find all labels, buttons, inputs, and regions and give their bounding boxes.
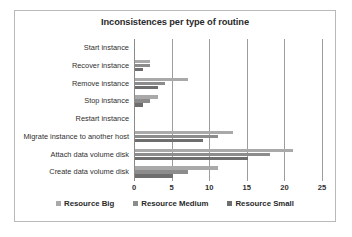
legend-label: Resource Medium — [141, 199, 208, 208]
category-row: Attach data volume disk — [134, 146, 322, 164]
legend-label: Resource Small — [235, 199, 294, 208]
category-row: Recover instance — [134, 57, 322, 75]
category-label: Stop instance — [84, 92, 134, 110]
x-tick-label: 25 — [318, 183, 326, 192]
x-tick-label: 15 — [243, 183, 251, 192]
legend-swatch-icon — [133, 201, 138, 206]
x-tick-label: 5 — [169, 183, 173, 192]
chart-title: Inconsistences per type of routine — [15, 17, 335, 27]
category-row: Restart instance — [134, 110, 322, 128]
bar — [135, 157, 248, 161]
x-tick-label: 0 — [132, 183, 136, 192]
chart-legend: Resource BigResource MediumResource Smal… — [15, 199, 335, 208]
bar — [135, 68, 143, 72]
category-label: Recover instance — [72, 57, 134, 75]
legend-label: Resource Big — [64, 199, 114, 208]
category-label: Create data volume disk — [49, 163, 134, 181]
category-row: Migrate instance to another host — [134, 128, 322, 146]
category-label: Remove instance — [72, 75, 134, 93]
bar — [135, 139, 203, 143]
bar — [135, 103, 143, 107]
category-label: Migrate instance to another host — [23, 128, 134, 146]
gridline-25 — [322, 39, 323, 181]
legend-item[interactable]: Resource Big — [56, 199, 114, 208]
category-row: Stop instance — [134, 92, 322, 110]
bar — [135, 86, 158, 90]
legend-swatch-icon — [56, 201, 61, 206]
category-row: Create data volume disk — [134, 163, 322, 181]
legend-item[interactable]: Resource Small — [227, 199, 294, 208]
category-label: Attach data volume disk — [51, 146, 134, 164]
x-axis-tick-labels: 0510152025 — [134, 183, 322, 195]
x-tick-label: 20 — [280, 183, 288, 192]
legend-item[interactable]: Resource Medium — [133, 199, 208, 208]
x-tick-label: 10 — [205, 183, 213, 192]
category-label: Restart instance — [76, 110, 134, 128]
category-row: Start instance — [134, 39, 322, 57]
chart-container: Inconsistences per type of routine Start… — [14, 10, 336, 222]
plot-area: Start instanceRecover instanceRemove ins… — [134, 39, 322, 181]
legend-swatch-icon — [227, 201, 232, 206]
bar — [135, 174, 173, 178]
category-label: Start instance — [84, 39, 134, 57]
category-row: Remove instance — [134, 75, 322, 93]
